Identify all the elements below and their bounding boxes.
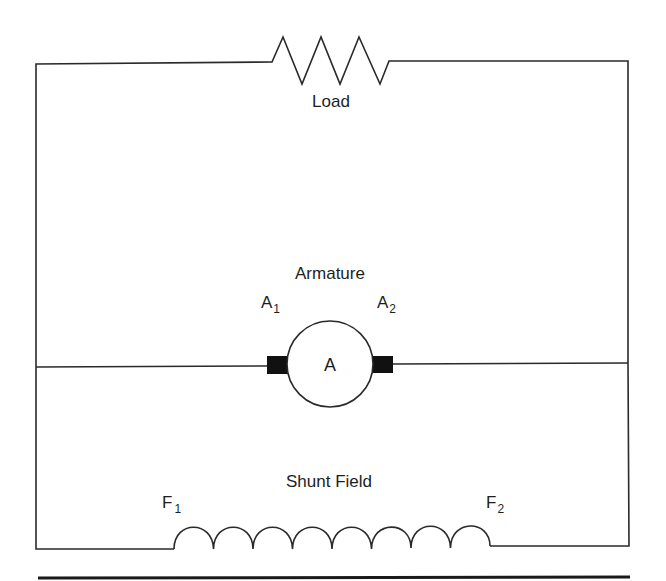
f2-main: F: [486, 493, 496, 512]
terminal-a2-label: A2: [377, 293, 396, 316]
brush-a2: [373, 356, 393, 373]
load-label: Load: [312, 92, 350, 111]
terminal-f2-label: F2: [486, 493, 504, 516]
armature-left-wire: [36, 366, 268, 367]
right-lower-wire: [490, 363, 629, 546]
f1-main: F: [162, 493, 172, 512]
figure-bottom-rule: [38, 577, 630, 578]
f1-subscript: 1: [174, 502, 181, 516]
a2-subscript: 2: [389, 302, 396, 316]
f2-subscript: 2: [497, 502, 504, 516]
terminal-f1-label: F1: [162, 493, 181, 516]
armature-label: Armature: [295, 264, 365, 283]
a1-subscript: 1: [273, 302, 280, 316]
shunt-field-label: Shunt Field: [286, 472, 372, 491]
a2-main: A: [377, 293, 389, 312]
left-lower-wire: [36, 367, 174, 549]
terminal-a1-label: A1: [261, 293, 280, 316]
armature-symbol-label: A: [324, 355, 336, 375]
brush-a1: [267, 356, 288, 374]
top-wire-with-load-resistor: [36, 37, 628, 367]
shunt-field-coil: [174, 526, 490, 549]
a1-main: A: [261, 293, 273, 312]
armature-right-wire: [393, 363, 628, 364]
shunt-motor-circuit-diagram: Load A Armature A1 A2 Shunt Field F1 F2: [0, 0, 666, 581]
